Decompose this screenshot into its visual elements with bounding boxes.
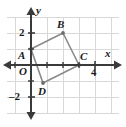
x-axis-arrow-right xyxy=(114,61,122,70)
y-tick-label-neg2: –2 xyxy=(9,91,20,102)
x-axis-label: x xyxy=(105,48,111,59)
y-axis-label: y xyxy=(36,5,41,16)
origin-label: O xyxy=(19,66,27,77)
vertex-label-d: D xyxy=(38,86,46,97)
y-axis-arrow-down xyxy=(27,112,36,120)
vertex-point-b xyxy=(61,31,65,35)
x-axis-arrow-left xyxy=(3,61,11,70)
vertex-label-a: A xyxy=(18,50,25,61)
y-axis xyxy=(27,7,36,120)
y-axis-arrow-up xyxy=(27,7,36,15)
coordinate-plane-figure: x y O 2 –2 4 A B C D xyxy=(0,0,126,127)
vertex-label-c: C xyxy=(80,51,87,62)
quadrilateral-abcd xyxy=(31,33,79,83)
y-tick-label-2: 2 xyxy=(19,27,25,38)
vertex-label-b: B xyxy=(57,19,64,30)
x-tick-label-4: 4 xyxy=(91,67,97,78)
